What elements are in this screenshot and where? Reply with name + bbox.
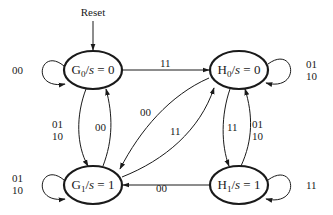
- svg-text:11: 11: [170, 125, 181, 137]
- svg-text:G0/s = 0: G0/s = 0: [72, 62, 115, 79]
- svg-text:11: 11: [160, 57, 171, 69]
- edge-h0-h1: 11: [223, 89, 237, 166]
- svg-text:01: 01: [52, 118, 63, 130]
- svg-text:11: 11: [306, 179, 317, 191]
- state-h0: H0/s = 0: [210, 51, 268, 89]
- svg-text:00: 00: [95, 121, 107, 133]
- svg-text:G1/s = 1: G1/s = 1: [72, 177, 115, 194]
- svg-text:H1/s = 1: H1/s = 1: [218, 177, 261, 194]
- svg-text:00: 00: [156, 182, 168, 194]
- self-loop-h1: 11: [266, 175, 317, 200]
- state-diagram: Reset 00 01 10 01 10 11 11 01 10 00 00: [0, 0, 333, 215]
- svg-text:01: 01: [306, 58, 317, 70]
- edge-g0-h0: 11: [122, 57, 209, 70]
- self-loop-g1: 01 10: [12, 172, 65, 199]
- self-loop-g0: 00: [12, 61, 65, 85]
- edge-g1-h0: 11: [122, 88, 214, 177]
- svg-text:00: 00: [140, 106, 152, 118]
- svg-text:11: 11: [227, 121, 238, 133]
- state-g1: G1/s = 1: [64, 166, 122, 204]
- reset-arrow: Reset: [81, 6, 105, 50]
- svg-text:10: 10: [252, 130, 264, 142]
- svg-text:00: 00: [12, 64, 24, 76]
- state-g0: G0/s = 0: [64, 51, 122, 89]
- svg-text:10: 10: [52, 130, 64, 142]
- state-h1: H1/s = 1: [210, 166, 268, 204]
- reset-label: Reset: [81, 6, 105, 18]
- svg-text:10: 10: [306, 70, 318, 82]
- edge-g0-g1: 01 10: [52, 89, 88, 166]
- edge-g1-g0: 00: [95, 89, 111, 166]
- svg-text:01: 01: [12, 172, 23, 184]
- svg-text:01: 01: [252, 118, 263, 130]
- edge-h1-g1: 00: [123, 182, 210, 194]
- svg-text:10: 10: [12, 184, 24, 196]
- svg-text:H0/s = 0: H0/s = 0: [218, 62, 261, 79]
- edge-h1-h0: 01 10: [241, 89, 264, 166]
- self-loop-h0: 01 10: [266, 58, 318, 84]
